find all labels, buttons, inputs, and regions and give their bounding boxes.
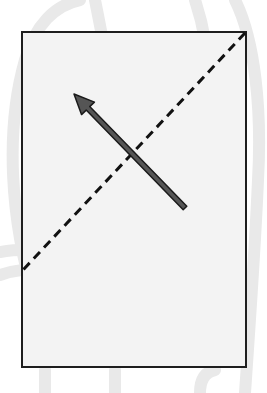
diagram-canvas [0,0,267,393]
ghost-shape-6 [200,370,215,393]
rectangle-panel [22,32,246,367]
